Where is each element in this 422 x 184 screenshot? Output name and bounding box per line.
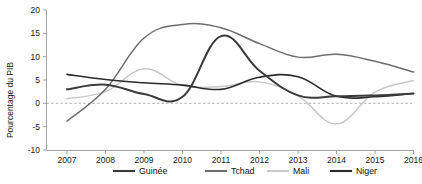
series-line-tchad (67, 24, 414, 121)
y-axis-tick-labels: 20 15 10 5 0 -5 -10 (28, 5, 41, 155)
y-tick-label-2: 10 (31, 52, 41, 62)
y-tick-label-6: -10 (28, 145, 41, 155)
legend-label-tchad: Tchad (231, 166, 255, 176)
y-tick-label-4: 0 (35, 98, 40, 108)
legend-label-mali: Mali (293, 166, 309, 176)
x-tick-label-5: 2012 (250, 155, 269, 165)
chart-container: Pourcentage du PIB 20 15 10 5 0 -5 -10 (0, 0, 422, 184)
y-tick-label-3: 5 (35, 75, 40, 85)
x-tick-label-7: 2014 (327, 155, 346, 165)
series-line-guine (67, 36, 414, 102)
x-tick-label-1: 2008 (96, 155, 115, 165)
x-axis-ticks (67, 151, 414, 155)
legend-label-guine: Guinée (139, 166, 167, 176)
x-tick-label-3: 2010 (173, 155, 192, 165)
x-tick-label-0: 2007 (58, 155, 77, 165)
series-layer (67, 24, 414, 124)
x-tick-label-2: 2009 (135, 155, 154, 165)
y-axis-title: Pourcentage du PIB (5, 62, 15, 138)
y-tick-label-1: 15 (31, 28, 41, 38)
x-axis-tick-labels: 2007 2008 2009 2010 2011 2012 2013 2014 … (58, 155, 422, 165)
x-tick-label-6: 2013 (289, 155, 308, 165)
x-tick-label-9: 2016 (404, 155, 422, 165)
y-tick-label-5: -5 (32, 122, 40, 132)
line-chart-svg: Pourcentage du PIB 20 15 10 5 0 -5 -10 (0, 0, 422, 184)
chart-legend: GuinéeTchadMaliNiger (113, 166, 377, 176)
y-tick-label-0: 20 (31, 5, 41, 15)
legend-label-niger: Niger (356, 166, 377, 176)
x-tick-label-8: 2015 (366, 155, 385, 165)
y-axis-ticks (43, 10, 47, 150)
x-tick-label-4: 2011 (212, 155, 231, 165)
